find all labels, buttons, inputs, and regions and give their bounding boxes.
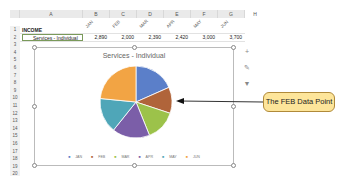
callout-box: The FEB Data Point bbox=[263, 92, 335, 112]
callout-arrow bbox=[0, 0, 337, 176]
